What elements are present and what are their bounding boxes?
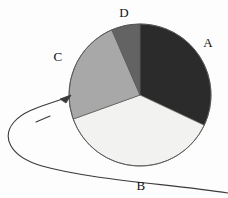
pie-slices-group (69, 24, 211, 166)
pie-chart-canvas (0, 0, 228, 198)
arrow-dash-segment (36, 116, 50, 122)
pie-label-a: A (203, 36, 213, 49)
pie-label-b: B (137, 179, 146, 192)
pie-label-d: D (119, 6, 129, 19)
pie-chart-figure: ABCD (0, 0, 228, 198)
pie-label-c: C (54, 50, 63, 63)
